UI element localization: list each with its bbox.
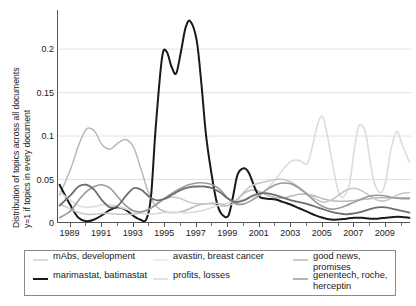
legend-item-mabs[interactable]: mAbs, development xyxy=(33,251,135,262)
x-axis-minor-tick-2008 xyxy=(369,223,370,226)
x-axis-tick-mark-1989 xyxy=(70,223,71,227)
x-axis-tick-1995: 1995 xyxy=(154,228,174,238)
y-axis-label: Distribution of topics across all docume… xyxy=(0,0,34,232)
series-canvas xyxy=(58,10,411,223)
x-axis-tick-1991: 1991 xyxy=(91,228,111,238)
legend-label: genentech, roche, herceptin xyxy=(313,270,387,291)
legend-swatch-line-icon xyxy=(293,255,308,265)
chart-legend: mAbs, developmentavastin, breast cancerg… xyxy=(24,250,396,296)
x-axis-tick-mark-1993 xyxy=(133,223,134,227)
x-axis-minor-tick-1994 xyxy=(148,223,149,226)
x-axis-minor-tick-2010 xyxy=(401,223,402,226)
legend-item-profits[interactable]: profits, losses xyxy=(153,270,230,281)
legend-label: profits, losses xyxy=(173,270,230,281)
line-chart: Distribution of topics across all docume… xyxy=(0,0,416,245)
plot-area xyxy=(57,10,410,223)
x-axis-tick-mark-2007 xyxy=(353,223,354,227)
x-axis-minor-tick-2000 xyxy=(243,223,244,226)
x-axis-minor-tick-2004 xyxy=(306,223,307,226)
legend-swatch-line-icon xyxy=(293,274,308,284)
legend-swatch-line-icon xyxy=(33,255,48,265)
x-axis-minor-tick-2002 xyxy=(274,223,275,226)
x-axis-minor-tick-1998 xyxy=(211,223,212,226)
x-axis-tick-mark-2003 xyxy=(290,223,291,227)
x-axis-tick-2009: 2009 xyxy=(375,228,395,238)
x-axis-tick-mark-1997 xyxy=(196,223,197,227)
y-axis-tick-0-15: 0.15 xyxy=(36,88,54,98)
x-axis-tick-1993: 1993 xyxy=(123,228,143,238)
x-axis-minor-tick-1990 xyxy=(85,223,86,226)
legend-label: avastin, breast cancer xyxy=(173,251,264,262)
chart-screenshot: Distribution of topics across all docume… xyxy=(0,0,416,306)
y-axis-tick-0-05: 0.05 xyxy=(36,175,54,185)
x-axis-tick-2001: 2001 xyxy=(249,228,269,238)
y-axis-tick-0: 0 xyxy=(49,218,54,228)
x-axis-tick-1989: 1989 xyxy=(60,228,80,238)
x-axis-tick-1999: 1999 xyxy=(217,228,237,238)
legend-label: good news, promises xyxy=(313,251,395,272)
y-axis-label-line1: Distribution of topics across all docume… xyxy=(11,68,21,229)
x-axis-tick-mark-2009 xyxy=(385,223,386,227)
legend-swatch-line-icon xyxy=(33,274,48,284)
x-axis-minor-tick-2006 xyxy=(338,223,339,226)
x-axis-minor-tick-1996 xyxy=(180,223,181,226)
legend-swatch-line-icon xyxy=(153,255,168,265)
y-axis-tick-labels: 00.050.10.150.2 xyxy=(30,0,56,232)
y-axis-tick-0-2: 0.2 xyxy=(41,44,54,54)
legend-item-avastin[interactable]: avastin, breast cancer xyxy=(153,251,264,262)
x-axis-tick-mark-2001 xyxy=(259,223,260,227)
x-axis-tick-mark-1995 xyxy=(164,223,165,227)
legend-row: mAbs, developmentavastin, breast cancerg… xyxy=(25,251,395,270)
x-axis-tick-2007: 2007 xyxy=(343,228,363,238)
x-axis-tick-2003: 2003 xyxy=(280,228,300,238)
legend-swatch-line-icon xyxy=(153,274,168,284)
legend-row: marimastat, batimastatprofits, lossesgen… xyxy=(25,270,395,289)
x-axis-tick-2005: 2005 xyxy=(312,228,332,238)
x-axis-tick-mark-2005 xyxy=(322,223,323,227)
x-axis-tick-mark-1999 xyxy=(227,223,228,227)
x-axis-tick-1997: 1997 xyxy=(186,228,206,238)
series-line-mabs-development xyxy=(60,128,410,213)
x-axis-minor-tick-1992 xyxy=(117,223,118,226)
legend-label: mAbs, development xyxy=(53,251,135,262)
x-axis-tick-mark-1991 xyxy=(101,223,102,227)
legend-item-marimastat[interactable]: marimastat, batimastat xyxy=(33,270,147,281)
legend-item-genentech[interactable]: genentech, roche, herceptin xyxy=(293,270,387,291)
x-axis: 1989199119931995199719992001200320052007… xyxy=(57,223,410,245)
legend-item-good-news[interactable]: good news, promises xyxy=(293,251,395,272)
y-axis-tick-0-1: 0.1 xyxy=(41,131,54,141)
legend-label: marimastat, batimastat xyxy=(53,270,147,281)
